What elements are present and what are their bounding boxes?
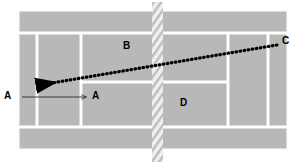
net: [152, 2, 163, 162]
label-a-target: A: [92, 91, 99, 101]
label-c: C: [282, 36, 289, 46]
tennis-court-diagram: A A B C D: [0, 0, 301, 164]
label-d: D: [180, 98, 187, 108]
label-b: B: [123, 41, 130, 51]
court-graphic: [0, 0, 301, 164]
label-a-outside: A: [4, 91, 11, 101]
